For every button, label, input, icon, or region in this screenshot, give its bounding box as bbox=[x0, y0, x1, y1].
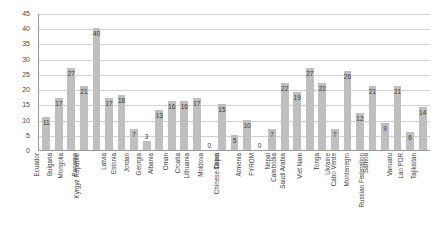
x-axis-tick-label: Jordan bbox=[124, 153, 131, 172]
x-axis-tick-label: Oman bbox=[162, 153, 169, 170]
bar-value-label: 7 bbox=[333, 131, 337, 138]
x-axis-tick-label: Latvia bbox=[100, 153, 107, 170]
bar-chart: 051015202530354045 111727214017187313161… bbox=[0, 0, 440, 235]
x-axis-tick-label: Tonga bbox=[313, 153, 320, 170]
x-axis-tick: Samoa bbox=[366, 152, 379, 234]
bar-slot: 19 bbox=[291, 14, 304, 150]
bar-slot: 0 bbox=[253, 14, 266, 150]
bar-slot: 16 bbox=[178, 14, 191, 150]
bar-value-label: 13 bbox=[156, 112, 163, 119]
bar: 22 bbox=[318, 83, 326, 150]
bar-value-label: 40 bbox=[93, 30, 100, 37]
bar-value-label: 12 bbox=[356, 115, 363, 122]
bar: 16 bbox=[180, 101, 188, 150]
bar: 7 bbox=[268, 129, 276, 150]
x-axis-tick-label: Tajikistan bbox=[410, 153, 417, 179]
bar-slot: 17 bbox=[191, 14, 204, 150]
bar: 22 bbox=[281, 83, 289, 150]
bar-slot: 7 bbox=[266, 14, 279, 150]
bar: 7 bbox=[130, 129, 138, 150]
bar: 5 bbox=[231, 135, 239, 150]
bar: 15 bbox=[218, 104, 226, 150]
bar-slot: 0 bbox=[203, 14, 216, 150]
bar-value-label: 26 bbox=[344, 73, 351, 80]
bar-slot: 16 bbox=[165, 14, 178, 150]
bar: 21 bbox=[369, 86, 377, 150]
bar-value-label: 5 bbox=[233, 137, 237, 144]
y-axis-tick-label: 25 bbox=[22, 71, 30, 79]
x-axis-tick-label: Cambodia bbox=[270, 153, 277, 182]
bar: 10 bbox=[243, 120, 251, 150]
bar-value-label: 17 bbox=[105, 100, 112, 107]
bar-value-label: 15 bbox=[218, 106, 225, 113]
bar-slot: 15 bbox=[216, 14, 229, 150]
bar: 16 bbox=[168, 101, 176, 150]
bar-value-label: 17 bbox=[193, 100, 200, 107]
x-axis-tick-label: Cabo Verde bbox=[331, 153, 338, 186]
x-axis-tick-label: Mongolia bbox=[58, 153, 65, 179]
bar: 17 bbox=[193, 98, 201, 150]
bar-value-label: 9 bbox=[383, 125, 387, 132]
bar: 14 bbox=[419, 107, 427, 150]
x-axis-tick-label: Croatia bbox=[173, 153, 180, 173]
bar: 13 bbox=[155, 110, 163, 150]
bar-value-label: 6 bbox=[408, 134, 412, 141]
bar-slot: 14 bbox=[416, 14, 429, 150]
bar-value-label: 0 bbox=[258, 142, 262, 149]
x-axis: EcuadorBulgariaMongoliaPanamaKyrgyz Repu… bbox=[38, 152, 430, 234]
bar-slot: 7 bbox=[329, 14, 342, 150]
y-axis-tick-label: 40 bbox=[22, 25, 30, 33]
bar-series: 1117272140171873131616170155100722192722… bbox=[39, 14, 430, 150]
bar-slot: 27 bbox=[65, 14, 78, 150]
bar-value-label: 21 bbox=[80, 88, 87, 95]
x-axis-tick-label: Ecuador bbox=[34, 153, 41, 176]
bar-slot: 18 bbox=[115, 14, 128, 150]
x-axis-tick-label: Montenegro bbox=[343, 153, 350, 187]
x-axis-tick-label: Kyrgyz Republic bbox=[73, 153, 80, 199]
x-axis-tick-label: Bulgaria bbox=[46, 153, 53, 176]
bar-slot: 21 bbox=[366, 14, 379, 150]
bar: 26 bbox=[344, 71, 352, 150]
bar: 17 bbox=[55, 98, 63, 150]
bar-slot: 10 bbox=[241, 14, 254, 150]
y-axis-tick-label: 0 bbox=[26, 147, 30, 155]
y-axis-tick-label: 15 bbox=[22, 101, 30, 109]
bar-slot: 6 bbox=[404, 14, 417, 150]
x-axis-tick-label: Estonia bbox=[110, 153, 117, 174]
bar: 21 bbox=[80, 86, 88, 150]
bar-slot: 17 bbox=[53, 14, 66, 150]
bar-slot: 7 bbox=[128, 14, 141, 150]
bar-value-label: 22 bbox=[319, 85, 326, 92]
bar-slot: 5 bbox=[228, 14, 241, 150]
bar-slot: 26 bbox=[341, 14, 354, 150]
bar-value-label: 11 bbox=[43, 119, 50, 126]
bar-value-label: 16 bbox=[168, 103, 175, 110]
y-axis-tick-label: 10 bbox=[22, 117, 30, 125]
bar-value-label: 10 bbox=[243, 122, 250, 129]
bar: 9 bbox=[381, 123, 389, 150]
bar-slot: 40 bbox=[90, 14, 103, 150]
plot-area: 1117272140171873131616170155100722192722… bbox=[38, 14, 430, 151]
y-axis-tick-label: 45 bbox=[22, 10, 30, 18]
bar-slot: 22 bbox=[316, 14, 329, 150]
bar-value-label: 7 bbox=[132, 131, 136, 138]
bar: 27 bbox=[67, 68, 75, 150]
bar-slot: 27 bbox=[303, 14, 316, 150]
bar-value-label: 7 bbox=[270, 131, 274, 138]
bar: 7 bbox=[331, 129, 339, 150]
y-axis-tick-label: 20 bbox=[22, 86, 30, 94]
x-axis-tick: Tajikistan bbox=[416, 152, 429, 234]
bar-slot: 3 bbox=[140, 14, 153, 150]
x-axis-tick-label: Moldova bbox=[197, 153, 204, 177]
bar-value-label: 18 bbox=[118, 97, 125, 104]
bar-value-label: 14 bbox=[419, 109, 426, 116]
bar-slot: 22 bbox=[278, 14, 291, 150]
bar-value-label: 22 bbox=[281, 85, 288, 92]
bar-slot: 9 bbox=[379, 14, 392, 150]
bar: 27 bbox=[306, 68, 314, 150]
bar: 6 bbox=[406, 132, 414, 150]
x-axis-tick-label: Georgia bbox=[135, 153, 142, 175]
x-axis-tick-label: Lao PDR bbox=[397, 153, 404, 179]
bar: 3 bbox=[143, 141, 151, 150]
bar-slot: 11 bbox=[40, 14, 53, 150]
